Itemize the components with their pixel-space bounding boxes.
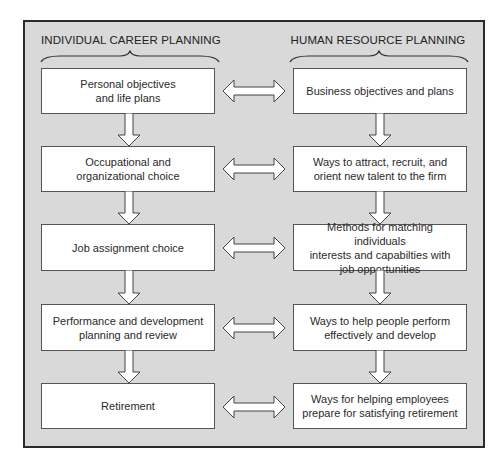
box-matching-methods: Methods for matching individuals interes… [293, 224, 467, 271]
column-title-individual-career-planning: INDIVIDUAL CAREER PLANNING [41, 34, 217, 46]
box-retirement: Retirement [41, 383, 215, 429]
double-arrow-icon [222, 157, 286, 181]
down-arrow-icon [368, 270, 392, 305]
down-arrow-icon [368, 350, 392, 384]
box-help-perform: Ways to help people perform effectively … [293, 304, 467, 351]
double-arrow-icon [222, 316, 286, 340]
box-personal-objectives: Personal objectives and life plans [41, 68, 215, 114]
box-attract-recruit: Ways to attract, recruit, and orient new… [293, 146, 467, 192]
column-title-human-resource-planning: HUMAN RESOURCE PLANNING [290, 34, 466, 46]
curly-brace-icon [289, 50, 469, 64]
double-arrow-icon [222, 395, 286, 419]
box-performance-development: Performance and development planning and… [41, 304, 215, 351]
box-business-objectives: Business objectives and plans [293, 68, 467, 114]
down-arrow-icon [117, 270, 141, 305]
down-arrow-icon [368, 191, 392, 225]
double-arrow-icon [222, 236, 286, 260]
down-arrow-icon [117, 113, 141, 147]
down-arrow-icon [368, 113, 392, 147]
box-retirement-preparation: Ways for helping employees prepare for s… [293, 383, 467, 429]
box-occupational-choice: Occupational and organizational choice [41, 146, 215, 192]
down-arrow-icon [117, 350, 141, 384]
down-arrow-icon [117, 191, 141, 225]
double-arrow-icon [222, 79, 286, 103]
box-job-assignment: Job assignment choice [41, 224, 215, 271]
curly-brace-icon [40, 50, 220, 64]
